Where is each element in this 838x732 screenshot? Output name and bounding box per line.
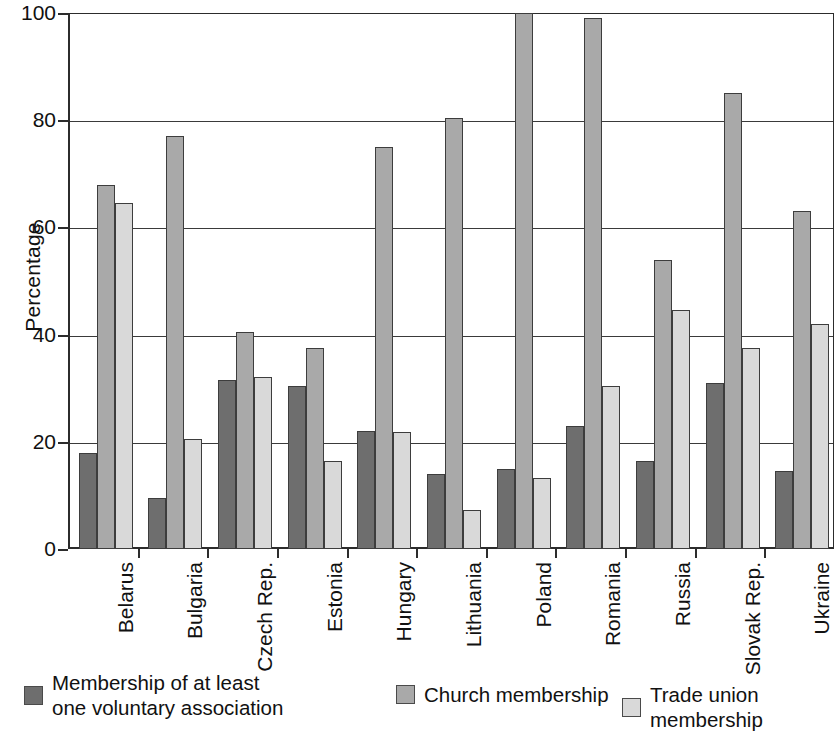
- bar: [654, 260, 672, 549]
- bar-group: [148, 13, 202, 549]
- bar: [236, 332, 254, 549]
- x-tick-mark: [138, 549, 140, 558]
- x-tick-mark: [416, 549, 418, 558]
- y-axis-title: Percentage: [21, 167, 45, 387]
- bar: [324, 461, 342, 549]
- y-tick-mark: [58, 335, 68, 337]
- bar: [445, 118, 463, 549]
- x-tick-mark: [347, 549, 349, 558]
- bar: [288, 386, 306, 549]
- legend-swatch-icon: [396, 685, 415, 704]
- bar: [793, 211, 811, 549]
- x-tick-mark: [695, 549, 697, 558]
- bar: [672, 310, 690, 549]
- y-tick-mark: [58, 13, 68, 15]
- bar: [742, 348, 760, 549]
- bar-group: [79, 13, 133, 549]
- legend-item-trade-union-membership: Trade union membership: [622, 682, 838, 732]
- bar: [115, 203, 133, 549]
- y-tick-label: 100: [0, 2, 56, 23]
- bar: [811, 324, 829, 549]
- bar: [775, 471, 793, 549]
- bar-group: [288, 13, 342, 549]
- bar: [375, 147, 393, 549]
- bar-group: [706, 13, 760, 549]
- legend-label: Trade union membership: [650, 682, 838, 732]
- x-tick-mark: [486, 549, 488, 558]
- y-tick-mark: [58, 549, 68, 551]
- bar: [184, 439, 202, 549]
- bar: [393, 432, 411, 549]
- bar: [79, 453, 97, 549]
- bar-group: [218, 13, 272, 549]
- bars-layer: [68, 13, 834, 549]
- legend-item-voluntary-association: Membership of at least one voluntary ass…: [24, 670, 283, 720]
- y-tick-mark: [58, 442, 68, 444]
- bar-group: [566, 13, 620, 549]
- bar: [602, 386, 620, 549]
- bar: [254, 377, 272, 549]
- y-tick-label: 60: [0, 216, 56, 237]
- bar: [724, 93, 742, 549]
- x-tick-mark: [555, 549, 557, 558]
- y-tick-label: 40: [0, 324, 56, 345]
- x-tick-mark: [625, 549, 627, 558]
- bar: [306, 348, 324, 549]
- bar-group: [636, 13, 690, 549]
- bar: [166, 136, 184, 549]
- bar: [533, 478, 551, 549]
- legend-item-church-membership: Church membership: [396, 682, 609, 707]
- legend-label: Church membership: [424, 682, 609, 707]
- bar-group: [427, 13, 481, 549]
- bar: [427, 474, 445, 549]
- bar: [706, 383, 724, 549]
- bar: [515, 13, 533, 549]
- bar: [218, 380, 236, 549]
- bar: [97, 185, 115, 549]
- y-tick-label: 20: [0, 431, 56, 452]
- bar: [463, 510, 481, 549]
- bar: [584, 18, 602, 549]
- legend-swatch-icon: [622, 698, 641, 717]
- y-tick-label: 80: [0, 109, 56, 130]
- y-tick-mark: [58, 120, 68, 122]
- x-tick-mark: [207, 549, 209, 558]
- bar: [636, 461, 654, 549]
- bar-group: [497, 13, 551, 549]
- bar: [357, 431, 375, 549]
- legend-swatch-icon: [24, 686, 43, 705]
- bar: [148, 498, 166, 549]
- bar-group: [775, 13, 829, 549]
- x-tick-mark: [764, 549, 766, 558]
- bar-group: [357, 13, 411, 549]
- y-tick-label: 0: [0, 538, 56, 559]
- x-tick-mark: [277, 549, 279, 558]
- bar: [566, 426, 584, 549]
- chart-legend: Membership of at least one voluntary ass…: [0, 668, 838, 725]
- y-tick-mark: [58, 227, 68, 229]
- legend-label: Membership of at least one voluntary ass…: [52, 670, 283, 720]
- bar: [497, 469, 515, 549]
